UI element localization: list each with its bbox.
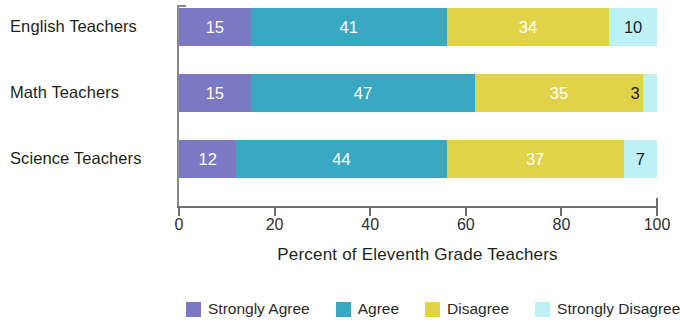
bar-english-teachers: 15413410 [179,8,657,46]
bar-segment-value: 15 [206,85,224,102]
legend-item-label: Strongly Agree [208,300,310,318]
bar-segment-value: 37 [526,151,544,168]
bar-segment-value: 34 [519,19,537,36]
bar-segment-disagree: 37 [447,140,624,178]
legend-item-label: Agree [358,300,399,318]
x-axis-title: Percent of Eleventh Grade Teachers [177,245,658,265]
stacked-bar-chart: English Teachers Math Teachers Science T… [0,0,680,324]
legend-swatch-icon [535,302,550,317]
x-axis-end-cap [656,198,658,208]
bar-segment-disagree: 35 [475,74,642,112]
bar-segment-value: 3 [630,85,639,102]
bar-segment-value: 15 [206,19,224,36]
x-axis-tick-label: 40 [361,216,379,234]
legend-swatch-icon [186,302,201,317]
x-axis-tick [369,208,371,216]
legend-swatch-icon [425,302,440,317]
category-label-english-teachers: English Teachers [10,17,170,36]
legend-item-strongly-disagree[interactable]: Strongly Disagree [535,300,680,318]
chart-legend: Strongly AgreeAgreeDisagreeStrongly Disa… [186,300,680,318]
bar-segment-value: 7 [636,151,645,168]
x-axis-tick-label: 100 [644,216,671,234]
bar-segment-agree: 41 [251,8,447,46]
bar-segment-strongly-disagree: 3 [643,74,657,112]
bar-segment-strongly-agree: 15 [179,74,251,112]
x-axis-tick-label: 60 [457,216,475,234]
legend-item-strongly-agree[interactable]: Strongly Agree [186,300,310,318]
x-axis-tick [656,208,658,216]
x-axis-tick [465,208,467,216]
legend-item-disagree[interactable]: Disagree [425,300,509,318]
x-axis-tick-label: 0 [175,216,184,234]
x-axis-tick [178,208,180,216]
bar-segment-disagree: 34 [447,8,610,46]
bar-segment-value: 12 [199,151,217,168]
bar-segment-value: 41 [339,19,357,36]
bar-segment-value: 47 [354,85,372,102]
bar-segment-value: 10 [624,19,642,36]
legend-swatch-icon [336,302,351,317]
bar-science-teachers: 1244377 [179,140,657,178]
bar-segment-agree: 47 [251,74,476,112]
x-axis-tick-label: 20 [266,216,284,234]
x-axis-tick-label: 80 [552,216,570,234]
x-axis-tick [274,208,276,216]
category-label-science-teachers: Science Teachers [10,149,170,168]
legend-item-label: Disagree [447,300,509,318]
legend-item-label: Strongly Disagree [557,300,680,318]
x-axis-tick [560,208,562,216]
bar-segment-value: 44 [332,151,350,168]
bar-segment-strongly-agree: 12 [179,140,236,178]
bar-segment-strongly-disagree: 10 [609,8,657,46]
bar-segment-agree: 44 [236,140,446,178]
x-axis-line [177,206,658,208]
y-axis-top-cap [177,5,186,7]
category-label-math-teachers: Math Teachers [10,83,170,102]
legend-item-agree[interactable]: Agree [336,300,399,318]
bar-math-teachers: 1547353 [179,74,657,112]
bar-segment-strongly-agree: 15 [179,8,251,46]
bar-segment-strongly-disagree: 7 [624,140,657,178]
bar-segment-value: 35 [550,85,568,102]
